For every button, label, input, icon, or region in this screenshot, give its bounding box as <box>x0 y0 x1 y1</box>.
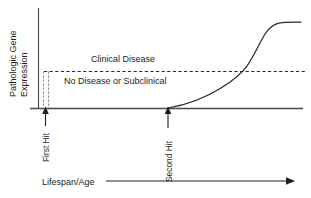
y-axis-label-line2: Expression <box>19 52 29 97</box>
clinical-disease-label: Clinical Disease <box>91 54 155 64</box>
second-hit-label: Second Hit <box>164 140 174 182</box>
y-axis-label-line1: Pathologic Gene <box>8 30 18 97</box>
first-hit-label: First Hit <box>41 132 51 162</box>
x-axis-arrow-head <box>286 177 295 185</box>
no-disease-subclinical-label: No Disease or Subclinical <box>64 76 167 86</box>
figure-canvas: Pathologic Gene Expression Clinical Dise… <box>0 0 311 198</box>
two-hit-hypothesis-figure: Pathologic Gene Expression Clinical Dise… <box>0 0 311 198</box>
x-axis-label: Lifespan/Age <box>42 177 95 187</box>
pathologic-expression-curve <box>168 22 301 108</box>
